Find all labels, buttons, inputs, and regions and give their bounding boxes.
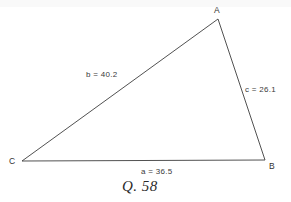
vertex-label-b: B	[269, 162, 275, 171]
side-label-a: a = 36.5	[141, 168, 173, 176]
figure-caption: Q. 58	[122, 178, 158, 195]
vertex-label-c: C	[9, 157, 15, 166]
triangle-outline	[22, 19, 265, 161]
side-label-c: c = 26.1	[245, 86, 276, 94]
triangle-figure: A B C b = 40.2 c = 26.1 a = 36.5 Q. 58	[0, 0, 291, 202]
vertex-label-a: A	[214, 6, 220, 15]
side-label-b: b = 40.2	[86, 71, 118, 79]
